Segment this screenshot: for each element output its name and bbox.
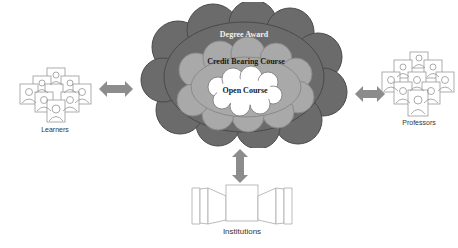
- learners-label: Learners: [15, 126, 95, 133]
- cloud-diagram: Degree Award Credit Bearing Course Open …: [138, 2, 350, 148]
- open-course-label: Open Course: [138, 86, 352, 95]
- double-arrow-horizontal-icon: [99, 80, 133, 98]
- professors-group: Professors: [380, 50, 458, 130]
- institutions-group: Institutions: [190, 184, 294, 248]
- cloud-shapes: [138, 2, 350, 148]
- degree-award-label: Degree Award: [138, 30, 350, 39]
- people-group-icon: [15, 66, 95, 128]
- credit-bearing-course-label: Credit Bearing Course: [138, 57, 354, 66]
- professors-label: Professors: [380, 119, 458, 126]
- double-arrow-vertical-icon: [231, 149, 249, 183]
- learners-cloud-arrow: [99, 80, 133, 98]
- learners-group: Learners: [15, 66, 95, 128]
- institutions-label: Institutions: [190, 227, 294, 236]
- institutions-cloud-arrow: [231, 149, 249, 183]
- building-icon: [190, 184, 294, 230]
- people-group-icon: [380, 50, 458, 122]
